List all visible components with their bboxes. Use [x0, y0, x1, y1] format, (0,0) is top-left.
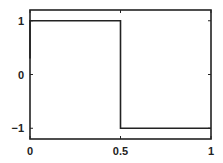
x-tick-label: 0.5: [113, 145, 128, 157]
y-tick-label: −1: [11, 122, 24, 134]
square-wave-line: [30, 21, 211, 129]
x-tick-label: 0: [27, 145, 33, 157]
square-wave-chart: 00.51 10−1: [0, 0, 223, 163]
y-tick-label: 0: [18, 69, 24, 81]
y-axis-labels: 10−1: [11, 15, 24, 135]
plot-area: [30, 10, 211, 139]
y-tick-label: 1: [18, 15, 24, 27]
x-axis-labels: 00.51: [27, 145, 214, 157]
x-tick-label: 1: [208, 145, 214, 157]
